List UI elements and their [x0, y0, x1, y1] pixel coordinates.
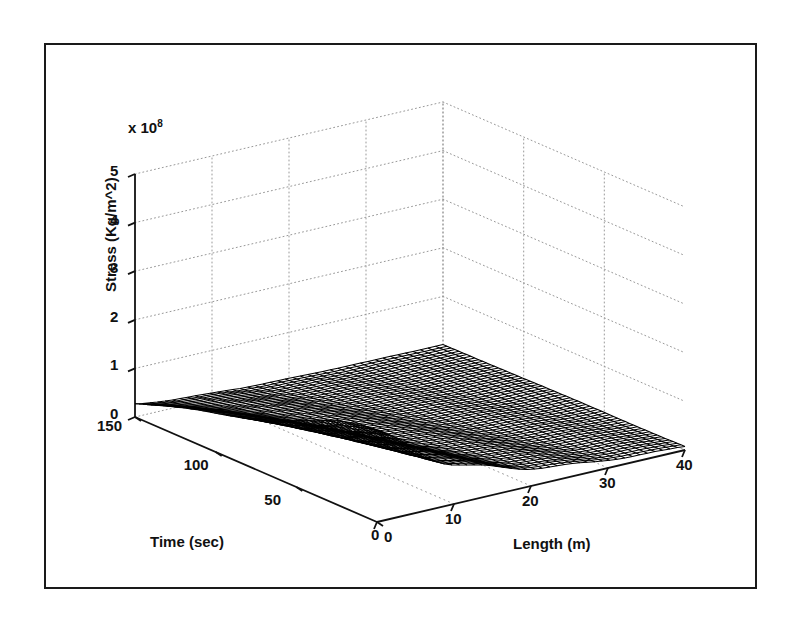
x-tick-40: 40: [676, 456, 693, 473]
x-tick-0: 0: [384, 528, 392, 545]
y-tick-0: 0: [371, 526, 379, 543]
x-tick-20: 20: [522, 492, 539, 509]
x-tick-30: 30: [599, 474, 616, 491]
z-axis-exponent: x 108: [128, 118, 163, 136]
z-tick-1: 1: [110, 356, 118, 373]
x-tick-10: 10: [445, 510, 462, 527]
z-tick-5: 5: [110, 162, 118, 179]
y-tick-100: 100: [184, 456, 209, 473]
z-tick-2: 2: [110, 308, 118, 325]
figure-page: x 108 Stress (Kg/m^2) Time (sec) Length …: [0, 0, 799, 623]
z-tick-3: 3: [110, 259, 118, 276]
y-tick-50: 50: [264, 491, 281, 508]
y-axis-label: Time (sec): [150, 533, 224, 550]
stress-surface: [135, 345, 685, 470]
z-tick-4: 4: [110, 211, 118, 228]
axis-spines: [135, 174, 685, 522]
x-axis-label: Length (m): [513, 535, 590, 552]
y-tick-150: 150: [97, 417, 122, 434]
